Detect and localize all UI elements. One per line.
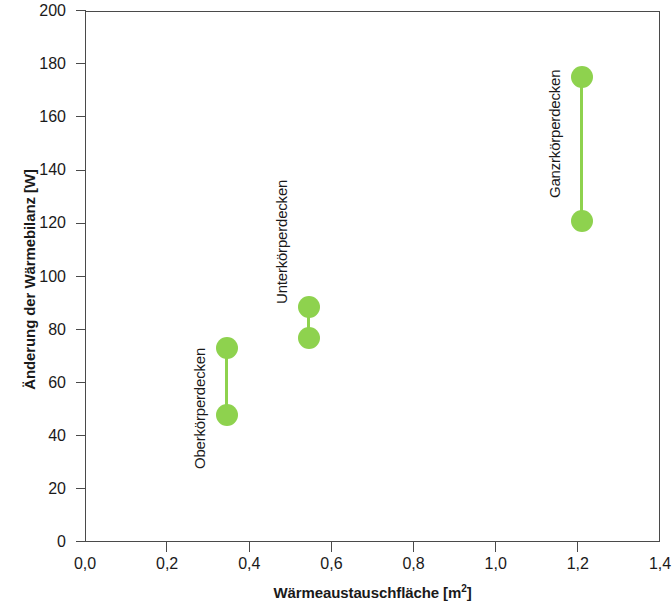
data-point-marker[interactable] (298, 296, 320, 318)
plot-area (85, 11, 660, 542)
x-tick-mark (249, 542, 250, 552)
y-tick-label: 100 (6, 269, 66, 285)
x-tick-label: 0,0 (50, 556, 120, 572)
x-tick-label: 1,2 (543, 556, 613, 572)
x-tick-label: 0,4 (214, 556, 284, 572)
y-tick-label: 60 (6, 375, 66, 391)
series-label-2: Ganzrkörperdecken (546, 70, 563, 198)
y-tick-mark (76, 170, 86, 171)
x-tick-label: 0,6 (296, 556, 366, 572)
x-axis-title-text: Wärmeaustauschfläche [m2] (273, 584, 471, 601)
y-tick-label: 160 (6, 109, 66, 125)
y-tick-mark (76, 382, 86, 383)
x-axis-title: Wärmeaustauschfläche [m2] (85, 583, 660, 601)
y-tick-mark (76, 541, 86, 542)
y-tick-mark (76, 223, 86, 224)
y-tick-mark (76, 435, 86, 436)
x-tick-mark (577, 542, 578, 552)
y-tick-label: 200 (6, 3, 66, 19)
y-tick-mark (76, 116, 86, 117)
y-tick-mark (76, 10, 86, 11)
y-tick-mark (76, 63, 86, 64)
y-tick-label: 80 (6, 322, 66, 338)
x-tick-label: 0,2 (132, 556, 202, 572)
y-tick-label: 120 (6, 215, 66, 231)
x-tick-label: 1,4 (625, 556, 672, 572)
x-tick-label: 1,0 (461, 556, 531, 572)
chart-container: Änderung der Wärmebilanz [W] Wärmeaustau… (0, 0, 672, 613)
y-tick-label: 20 (6, 481, 66, 497)
x-tick-mark (413, 542, 414, 552)
y-tick-mark (76, 276, 86, 277)
y-tick-label: 40 (6, 428, 66, 444)
x-tick-mark (495, 542, 496, 552)
data-point-marker[interactable] (298, 327, 320, 349)
series-label-0: Oberkörperdecken (191, 348, 208, 469)
series-connector-line (580, 77, 583, 220)
series-label-1: Unterkörperdecken (273, 180, 290, 304)
y-tick-label: 0 (6, 534, 66, 550)
y-tick-label: 140 (6, 162, 66, 178)
x-tick-mark (166, 542, 167, 552)
y-tick-mark (76, 488, 86, 489)
y-tick-mark (76, 329, 86, 330)
x-tick-mark (331, 542, 332, 552)
data-point-marker[interactable] (216, 337, 238, 359)
y-tick-label: 180 (6, 56, 66, 72)
data-point-marker[interactable] (571, 210, 593, 232)
data-point-marker[interactable] (216, 404, 238, 426)
x-tick-label: 0,8 (379, 556, 449, 572)
